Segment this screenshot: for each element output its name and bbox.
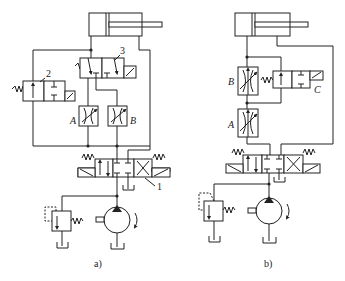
directional-valve-b <box>226 149 320 173</box>
panel-b: B C A <box>199 13 333 270</box>
relief-valve-a <box>45 196 83 248</box>
label-c: C <box>314 84 321 95</box>
label-b: B <box>130 115 136 126</box>
panel-a: 3 2 A <box>12 13 170 270</box>
throttle-b <box>108 106 127 126</box>
cylinder-a <box>89 13 162 36</box>
relief-valve-b <box>199 184 235 242</box>
valve-2 <box>12 81 75 101</box>
pump-a <box>96 205 137 249</box>
cylinder-b <box>235 13 308 36</box>
label-1: 1 <box>157 181 162 192</box>
caption-b: b) <box>264 258 272 270</box>
hydraulic-diagram: 3 2 A <box>0 0 345 281</box>
throttle-a-panel-b <box>238 109 258 137</box>
throttle-a <box>79 106 98 126</box>
label-3: 3 <box>120 45 125 56</box>
label-a-panel-b: A <box>227 119 235 130</box>
pump-b <box>248 196 289 243</box>
caption-a: a) <box>94 258 102 270</box>
valve-1 <box>78 154 170 177</box>
label-a: A <box>69 115 77 126</box>
label-2: 2 <box>46 68 51 79</box>
valve-3 <box>75 58 136 78</box>
label-b-panel-b: B <box>228 76 234 87</box>
throttle-b-panel-b <box>238 67 258 95</box>
